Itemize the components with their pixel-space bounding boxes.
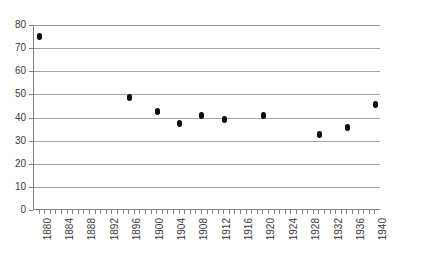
x-tick-label-1896: 1896: [132, 218, 142, 240]
x-tick-label-1908: 1908: [199, 218, 209, 240]
x-tick-label-1928: 1928: [311, 218, 321, 240]
x-tick-label-1932: 1932: [334, 218, 344, 240]
x-tick-label-1924: 1924: [289, 218, 299, 240]
x-tick-label-1888: 1888: [87, 218, 97, 240]
x-tick-label-1904: 1904: [177, 218, 187, 240]
x-tick-label-1892: 1892: [110, 218, 120, 240]
x-axis: 1880188418881892189619001904190819121916…: [0, 0, 421, 268]
x-tick-label-1916: 1916: [244, 218, 254, 240]
x-tick-label-1900: 1900: [155, 218, 165, 240]
x-tick-label-1884: 1884: [65, 218, 75, 240]
x-tick-label-1920: 1920: [266, 218, 276, 240]
x-tick-label-1940: 1940: [378, 218, 388, 240]
x-tick-label-1912: 1912: [222, 218, 232, 240]
scatter-chart: 01020304050607080 1880188418881892189619…: [0, 0, 421, 268]
x-tick-label-1936: 1936: [356, 218, 366, 240]
x-tick-label-1880: 1880: [43, 218, 53, 240]
